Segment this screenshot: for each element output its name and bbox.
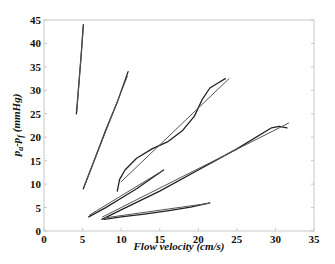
series-curve-3	[117, 79, 225, 192]
y-tick-label: 5	[36, 202, 42, 214]
y-tick-label: 10	[30, 178, 42, 190]
series-curve-5-fit	[103, 123, 289, 217]
x-tick-label: 25	[231, 233, 243, 245]
data-series	[76, 25, 288, 220]
x-tick-label: 0	[41, 233, 47, 245]
y-tick-label: 30	[30, 84, 42, 96]
series-curve-2-fit	[84, 76, 127, 186]
x-tick-label: 10	[116, 233, 128, 245]
y-tick-label: 45	[30, 14, 42, 26]
y-tick-label: 15	[30, 155, 42, 167]
x-tick-label: 30	[270, 233, 282, 245]
x-tick-label: 5	[80, 233, 86, 245]
x-axis-label: Flow velocity (cm/s)	[132, 240, 224, 253]
series-curve-1-fit	[77, 27, 84, 111]
axis-ticks	[44, 20, 314, 231]
y-axis-label-unit: (mmHg)	[10, 94, 23, 135]
y-tick-label: 40	[30, 37, 42, 49]
y-axis-label: pa-pf (mmHg)	[10, 94, 25, 158]
chart: 051015202530354045 05101520253035 Flow v…	[0, 0, 335, 264]
y-tick-label: 35	[30, 61, 42, 73]
y-tick-label: 25	[30, 108, 42, 120]
plot-frame	[44, 20, 314, 231]
x-tick-label: 35	[309, 233, 321, 245]
y-tick-labels: 051015202530354045	[30, 14, 42, 237]
y-tick-label: 20	[30, 131, 42, 143]
series-curve-3-fit	[121, 79, 229, 182]
